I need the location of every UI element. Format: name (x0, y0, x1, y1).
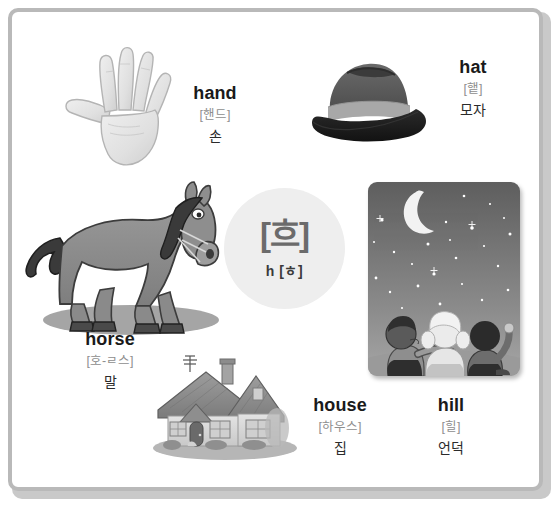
hat-illustration (300, 50, 435, 145)
word-block-hat: hat [햍] 모자 (423, 58, 523, 117)
word-en-horse: horse (55, 330, 165, 348)
word-block-house: house [하우스] 집 (285, 396, 395, 455)
house-illustration (150, 350, 300, 460)
horse-illustration (18, 178, 233, 343)
word-pron-house: [하우스] (285, 421, 395, 434)
word-pron-hand: [핸드] (160, 109, 270, 122)
word-pron-hill: [힐] (396, 421, 506, 434)
word-block-horse: horse [호-ㄹ스] 말 (55, 330, 165, 389)
word-en-hand: hand (160, 84, 270, 102)
word-pron-horse: [호-ㄹ스] (55, 355, 165, 368)
word-kr-hill: 언덕 (396, 441, 506, 455)
word-kr-house: 집 (285, 441, 395, 455)
word-pron-hat: [햍] (423, 83, 523, 96)
hill-illustration (368, 182, 520, 376)
word-block-hand: hand [핸드] 손 (160, 84, 270, 143)
letter-glyph: [흐] (260, 218, 309, 251)
word-kr-horse: 말 (55, 375, 165, 389)
letter-romanization: h [ㅎ] (266, 260, 303, 280)
word-en-house: house (285, 396, 395, 414)
word-kr-hand: 손 (160, 129, 270, 143)
flashcard-poster: hand [핸드] 손 (0, 0, 559, 507)
word-kr-hat: 모자 (423, 103, 523, 117)
word-block-hill: hill [힐] 언덕 (396, 396, 506, 455)
letter-circle: [흐] h [ㅎ] (224, 188, 345, 309)
word-en-hat: hat (423, 58, 523, 76)
word-en-hill: hill (396, 396, 506, 414)
